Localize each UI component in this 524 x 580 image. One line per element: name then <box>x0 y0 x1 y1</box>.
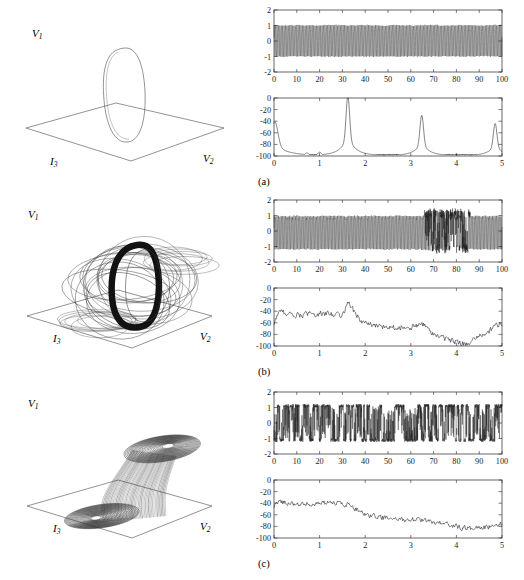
svg-text:-60: -60 <box>260 129 271 138</box>
portrait-b-axis-v1: V1 <box>28 208 38 220</box>
svg-text:70: 70 <box>430 457 438 466</box>
svg-text:-80: -80 <box>260 140 271 149</box>
svg-text:-1: -1 <box>264 243 271 252</box>
svg-text:4: 4 <box>454 541 458 550</box>
svg-text:2: 2 <box>363 541 367 550</box>
svg-text:50: 50 <box>384 265 392 274</box>
svg-text:0: 0 <box>272 349 276 358</box>
svg-text:40: 40 <box>361 265 369 274</box>
svg-text:0: 0 <box>272 159 276 168</box>
svg-text:3: 3 <box>409 541 413 550</box>
portrait-a-axis-v2: V2 <box>203 152 213 164</box>
svg-text:0: 0 <box>267 227 271 236</box>
svg-text:2: 2 <box>267 388 271 397</box>
panel-c: V1 I3 V2 0102030405060708090100-2-1012 0… <box>0 380 524 580</box>
svg-text:1: 1 <box>318 159 322 168</box>
svg-text:60: 60 <box>407 75 415 84</box>
svg-text:-1: -1 <box>264 53 271 62</box>
svg-text:90: 90 <box>475 75 483 84</box>
svg-text:-1: -1 <box>264 435 271 444</box>
svg-text:-80: -80 <box>260 522 271 531</box>
svg-text:-20: -20 <box>260 296 271 305</box>
svg-text:80: 80 <box>452 265 460 274</box>
svg-text:-100: -100 <box>256 534 271 543</box>
svg-text:10: 10 <box>293 457 301 466</box>
portrait-c-axis-i3: I3 <box>53 522 60 534</box>
svg-text:3: 3 <box>409 349 413 358</box>
svg-text:4: 4 <box>454 349 458 358</box>
svg-text:0: 0 <box>267 476 271 485</box>
panel-a: V1 I3 V2 0102030405060708090100-2-1012 0… <box>0 0 524 192</box>
svg-text:3: 3 <box>409 159 413 168</box>
svg-text:100: 100 <box>496 457 508 466</box>
svg-text:40: 40 <box>361 457 369 466</box>
svg-text:0: 0 <box>272 265 276 274</box>
svg-text:-2: -2 <box>264 68 271 77</box>
portrait-b-axis-v2: V2 <box>200 330 210 342</box>
phase-portrait-b: V1 I3 V2 <box>0 190 250 382</box>
svg-text:-40: -40 <box>260 307 271 316</box>
portrait-a-axis-i3: I3 <box>50 155 57 167</box>
svg-text:50: 50 <box>384 457 392 466</box>
svg-text:10: 10 <box>293 265 301 274</box>
svg-text:80: 80 <box>452 75 460 84</box>
svg-text:20: 20 <box>316 265 324 274</box>
panel-c-plots: 0102030405060708090100-2-1012 012345-100… <box>250 380 524 580</box>
svg-text:1: 1 <box>267 404 271 413</box>
svg-text:80: 80 <box>452 457 460 466</box>
svg-text:70: 70 <box>430 75 438 84</box>
svg-text:90: 90 <box>475 457 483 466</box>
panel-b-charts: 0102030405060708090100-2-1012 012345-100… <box>250 190 524 382</box>
svg-text:0: 0 <box>272 541 276 550</box>
svg-text:100: 100 <box>496 75 508 84</box>
svg-text:1: 1 <box>267 212 271 221</box>
svg-text:0: 0 <box>267 419 271 428</box>
portrait-c-axis-v2: V2 <box>200 520 210 532</box>
portrait-b-axis-i3: I3 <box>53 332 60 344</box>
svg-text:30: 30 <box>338 75 346 84</box>
svg-text:1: 1 <box>318 349 322 358</box>
svg-text:20: 20 <box>316 457 324 466</box>
panel-a-charts: 0102030405060708090100-2-1012 012345-100… <box>250 0 524 192</box>
svg-text:30: 30 <box>338 265 346 274</box>
figure-root: V1 I3 V2 0102030405060708090100-2-1012 0… <box>0 0 524 580</box>
svg-text:1: 1 <box>318 541 322 550</box>
svg-text:-2: -2 <box>264 450 271 459</box>
phase-portrait-a: V1 I3 V2 <box>0 0 250 192</box>
svg-text:-20: -20 <box>260 106 271 115</box>
svg-text:100: 100 <box>496 265 508 274</box>
svg-text:0: 0 <box>267 284 271 293</box>
svg-text:40: 40 <box>361 75 369 84</box>
svg-text:70: 70 <box>430 265 438 274</box>
svg-text:-60: -60 <box>260 511 271 520</box>
panel-b: V1 I3 V2 0102030405060708090100-2-1012 0… <box>0 190 524 382</box>
svg-text:2: 2 <box>267 196 271 205</box>
svg-text:20: 20 <box>316 75 324 84</box>
svg-text:-100: -100 <box>256 152 271 161</box>
svg-text:-40: -40 <box>260 117 271 126</box>
portrait-a-axis-v1: V1 <box>32 27 42 39</box>
panel-a-plots: 0102030405060708090100-2-1012 012345-100… <box>250 0 524 192</box>
svg-text:-100: -100 <box>256 342 271 351</box>
svg-text:90: 90 <box>475 265 483 274</box>
svg-text:-40: -40 <box>260 499 271 508</box>
phase-portrait-c: V1 I3 V2 <box>0 380 250 580</box>
svg-text:0: 0 <box>267 37 271 46</box>
svg-text:-80: -80 <box>260 330 271 339</box>
panel-tag-c: (c) <box>258 558 270 569</box>
svg-text:-20: -20 <box>260 488 271 497</box>
panel-tag-b: (b) <box>258 366 270 377</box>
svg-text:60: 60 <box>407 265 415 274</box>
panel-tag-a: (a) <box>258 176 270 187</box>
svg-text:30: 30 <box>338 457 346 466</box>
portrait-c-axis-v1: V1 <box>28 397 38 409</box>
svg-text:2: 2 <box>267 6 271 15</box>
panel-c-charts: 0102030405060708090100-2-1012 012345-100… <box>250 380 524 580</box>
panel-b-plots: 0102030405060708090100-2-1012 012345-100… <box>250 190 524 382</box>
svg-text:0: 0 <box>272 75 276 84</box>
svg-text:5: 5 <box>500 349 504 358</box>
svg-text:5: 5 <box>500 159 504 168</box>
svg-text:60: 60 <box>407 457 415 466</box>
svg-text:0: 0 <box>272 457 276 466</box>
svg-text:-2: -2 <box>264 258 271 267</box>
